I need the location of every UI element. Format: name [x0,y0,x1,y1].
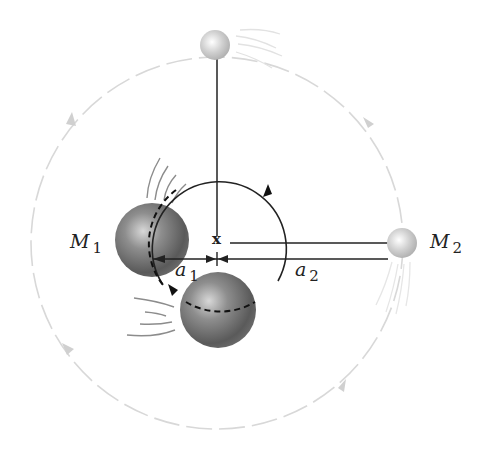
orbit-arrow-icon [263,184,272,197]
diagram-canvas [0,0,486,458]
motion-lines-top [236,30,282,69]
orbit-arrow-icon [66,112,76,126]
center-of-mass-mark: x [212,232,221,247]
motion-lines-lower [127,298,175,336]
label-M2: M2 [430,232,462,256]
label-a1: a1 [175,260,199,284]
binary-star-diagram: x M1 M2 a1 a2 [0,0,486,458]
label-M1: M1 [70,232,102,256]
motion-lines-m2 [376,262,410,314]
label-a2: a2 [295,260,319,284]
small-mass-top [200,30,230,60]
motion-lines-m1 [147,158,186,203]
small-mass-M2 [387,228,417,258]
orbit-arrow-icon [168,284,178,296]
orbit-arrow-icon [363,117,374,128]
